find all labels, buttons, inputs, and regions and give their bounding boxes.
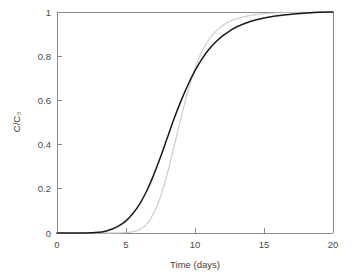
y-tick-label-2: 0.4 <box>38 139 51 150</box>
y-tick-label-0: 0 <box>46 228 51 239</box>
x-tick-label-1: 5 <box>123 239 128 250</box>
x-axis-title: Time (days) <box>170 259 220 270</box>
y-tick-label-1: 0.2 <box>38 183 51 194</box>
chart-background <box>0 0 355 277</box>
x-tick-label-3: 15 <box>259 239 270 250</box>
x-tick-label-2: 10 <box>190 239 201 250</box>
y-tick-label-3: 0.6 <box>38 95 51 106</box>
breakthrough-curve-chart: 0 0.2 0.4 0.6 0.8 1 0 5 10 15 20 Time (d… <box>0 0 355 277</box>
x-tick-label-4: 20 <box>328 239 339 250</box>
y-tick-label-4: 0.8 <box>38 51 51 62</box>
y-axis-title: C/C₀ <box>11 112 22 132</box>
x-tick-label-0: 0 <box>54 239 59 250</box>
y-tick-label-5: 1 <box>46 7 51 18</box>
